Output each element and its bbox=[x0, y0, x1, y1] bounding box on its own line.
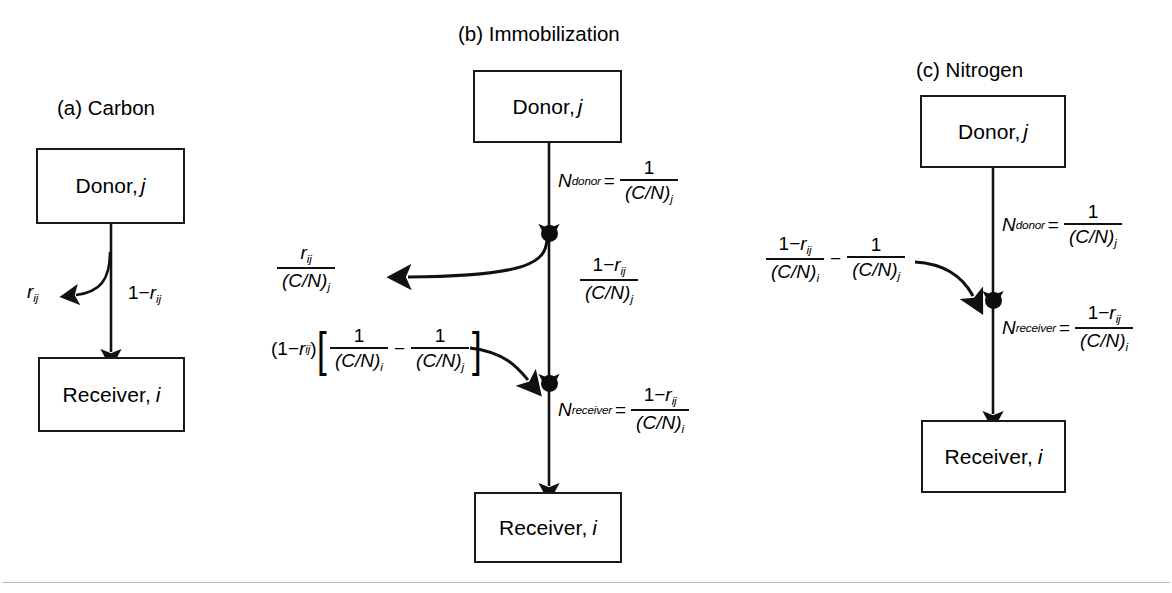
panel-c-n-donor-den-text: (C/N) bbox=[1069, 226, 1114, 247]
panel-b-bracket-term1-den-sub: i bbox=[380, 359, 383, 372]
panel-b-branch-num-sub: ij bbox=[307, 252, 312, 265]
panel-b-trunk-fraction-label: 1−rij (C/N)j bbox=[578, 255, 640, 305]
panel-c-net-term1-num-lead: 1− bbox=[779, 233, 801, 254]
panel-b-bracket-prefix-open: (1− bbox=[271, 339, 299, 359]
panel-b-n-donor-equals: = bbox=[604, 171, 615, 191]
panel-c-donor-index: j bbox=[1020, 120, 1028, 144]
panel-c-net-term2-den-sub: j bbox=[898, 269, 901, 282]
panel-b-bracket-open: [ bbox=[317, 328, 327, 372]
panel-b-n-receiver-name: N bbox=[558, 400, 572, 420]
panel-c-receiver-index: i bbox=[1033, 445, 1043, 469]
panel-b-trunk-fraction: 1−rij (C/N)j bbox=[580, 255, 638, 305]
panel-c-n-donor-fraction: 1 (C/N)j bbox=[1064, 202, 1122, 249]
panel-c-n-donor-denominator: (C/N)j bbox=[1064, 225, 1122, 249]
panel-c-n-donor-name: N bbox=[1002, 215, 1016, 235]
panel-b-branch-fraction-label: rij (C/N)j bbox=[275, 243, 337, 293]
panel-a-main-flow-label: 1−rij bbox=[128, 283, 161, 306]
panel-b-bracket-prefix-close: ) bbox=[310, 339, 316, 359]
panel-a-donor-label: Donor, bbox=[75, 174, 137, 198]
panel-c-junction-node bbox=[985, 292, 1002, 309]
panel-c-net-term1-den-sub: i bbox=[816, 270, 819, 283]
panel-b-junction-node-1 bbox=[541, 225, 558, 242]
panel-c-net-term1-num-sub: ij bbox=[807, 243, 812, 256]
panel-b-n-receiver-num-sub: ij bbox=[672, 394, 677, 407]
panel-b-n-receiver-sub: receiver bbox=[572, 404, 612, 416]
arrow-c-net-n-in bbox=[915, 262, 973, 296]
panel-b-n-receiver-den-sub: i bbox=[681, 421, 684, 434]
panel-b-n-receiver-den-text: (C/N) bbox=[636, 412, 681, 433]
panel-b-trunk-numerator: 1−rij bbox=[580, 255, 638, 281]
panel-b-bracket-term1-den: (C/N)i bbox=[330, 349, 388, 373]
panel-a-main-sub: ij bbox=[156, 292, 161, 305]
panel-b-n-donor-equation: Ndonor = 1 (C/N)j bbox=[558, 158, 680, 205]
panel-c-n-receiver-num-lead: 1− bbox=[1088, 302, 1110, 323]
panel-a-main-lead: 1− bbox=[128, 282, 150, 303]
panel-b-bracket-term2-den-sub: j bbox=[461, 359, 464, 372]
panel-b-bracket-term1-den-text: (C/N) bbox=[335, 350, 380, 371]
panel-b-n-receiver-equals: = bbox=[615, 400, 626, 420]
panel-b-junction-node-2 bbox=[541, 375, 558, 392]
panel-a-receiver-index: i bbox=[151, 383, 161, 407]
panel-b-n-donor-denominator: (C/N)j bbox=[620, 181, 678, 205]
panel-b-bracket-term-1: 1 (C/N)i bbox=[330, 326, 388, 373]
panel-b-receiver-box: Receiver,i bbox=[474, 492, 622, 563]
panel-c-n-donor-equals: = bbox=[1048, 215, 1059, 235]
panel-b-branch-den-sub: j bbox=[327, 279, 330, 292]
panel-b-bracket-term1-num: 1 bbox=[330, 326, 388, 349]
panel-b-title: (b) Immobilization bbox=[458, 22, 620, 46]
arrow-a-branch-loss bbox=[76, 252, 110, 295]
panel-b-n-receiver-equation: Nreceiver = 1−rij (C/N)i bbox=[558, 385, 691, 435]
panel-c-n-receiver-numerator: 1−rij bbox=[1075, 303, 1133, 329]
panel-c-donor-label: Donor, bbox=[958, 120, 1020, 144]
panel-c-n-donor-den-sub: j bbox=[1114, 235, 1117, 248]
panel-c-title: (c) Nitrogen bbox=[916, 58, 1023, 82]
panel-b-n-receiver-denominator: (C/N)i bbox=[631, 411, 689, 435]
bottom-divider bbox=[2, 582, 1170, 583]
panel-c-net-term1-num: 1−rij bbox=[766, 234, 824, 260]
panel-a-receiver-label: Receiver, bbox=[62, 383, 150, 407]
panel-c-receiver-box: Receiver,i bbox=[921, 420, 1066, 493]
panel-c-net-n-expression: 1−rij (C/N)i − 1 (C/N)j bbox=[764, 234, 907, 284]
panel-b-immobilization-expression: (1−rij) [ 1 (C/N)i − 1 (C/N)j ] bbox=[271, 326, 483, 373]
panel-c-net-term2-den: (C/N)j bbox=[847, 258, 905, 282]
panel-b-n-receiver-num-lead: 1− bbox=[644, 384, 666, 405]
panel-b-n-donor-numerator: 1 bbox=[620, 158, 678, 181]
panel-a-title: (a) Carbon bbox=[57, 96, 155, 120]
panel-b-trunk-den-text: (C/N) bbox=[585, 282, 630, 303]
panel-b-donor-label: Donor, bbox=[512, 95, 574, 119]
panel-b-n-donor-name: N bbox=[558, 171, 572, 191]
panel-a-branch-label: rij bbox=[27, 282, 38, 305]
panel-b-branch-denominator: (C/N)j bbox=[277, 269, 335, 293]
panel-b-bracket-minus: − bbox=[394, 339, 405, 359]
panel-c-net-term2-den-text: (C/N) bbox=[852, 259, 897, 280]
panel-b-trunk-den-sub: j bbox=[630, 291, 633, 304]
panel-c-net-minus: − bbox=[830, 249, 841, 269]
panel-b-branch-den-text: (C/N) bbox=[282, 270, 327, 291]
panel-c-receiver-label: Receiver, bbox=[944, 445, 1032, 469]
panel-b-bracket-term2-den: (C/N)j bbox=[411, 349, 469, 373]
panel-b-receiver-index: i bbox=[587, 516, 597, 540]
panel-b-n-donor-sub: donor bbox=[572, 175, 601, 187]
panel-c-n-donor-numerator: 1 bbox=[1064, 202, 1122, 225]
panel-c-n-receiver-equation: Nreceiver = 1−rij (C/N)i bbox=[1002, 303, 1135, 353]
panel-b-connectors bbox=[408, 143, 549, 486]
panel-c-n-receiver-denominator: (C/N)i bbox=[1075, 329, 1133, 353]
panel-c-n-receiver-equals: = bbox=[1059, 318, 1070, 338]
panel-a-donor-index: j bbox=[138, 174, 146, 198]
panel-b-trunk-num-lead: 1− bbox=[593, 254, 615, 275]
panel-b-n-donor-den-text: (C/N) bbox=[625, 182, 670, 203]
panel-b-receiver-label: Receiver, bbox=[499, 516, 587, 540]
panel-c-n-donor-equation: Ndonor = 1 (C/N)j bbox=[1002, 202, 1124, 249]
panel-c-n-receiver-sub: receiver bbox=[1016, 322, 1056, 334]
panel-b-bracket-close: ] bbox=[472, 328, 482, 372]
panel-b-branch-numerator: rij bbox=[277, 243, 335, 269]
panel-a-connectors bbox=[76, 224, 111, 352]
panel-c-net-term-1: 1−rij (C/N)i bbox=[766, 234, 824, 284]
panel-b-trunk-denominator: (C/N)j bbox=[580, 281, 638, 305]
panel-b-donor-box: Donor,j bbox=[473, 70, 622, 143]
panel-c-net-term1-den: (C/N)i bbox=[766, 260, 824, 284]
panel-c-n-receiver-fraction: 1−rij (C/N)i bbox=[1075, 303, 1133, 353]
arrow-b-branch-out bbox=[408, 240, 547, 277]
panel-b-bracket-term2-den-text: (C/N) bbox=[416, 350, 461, 371]
panel-c-n-donor-sub: donor bbox=[1016, 219, 1045, 231]
